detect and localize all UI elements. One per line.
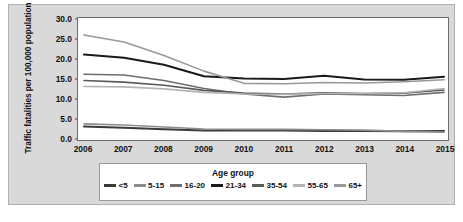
x-tick-label: 2013 — [355, 144, 374, 154]
legend-items: <55-1516-2021-3435-5455-6565+ — [100, 181, 366, 190]
y-axis-tick-labels: 0.05.010.015.020.025.030.0 — [43, 17, 75, 141]
y-tick-label: 10.0 — [56, 94, 72, 104]
line-chart-svg — [78, 18, 448, 140]
legend-label: 65+ — [348, 181, 362, 190]
x-tick-label: 2008 — [154, 144, 173, 154]
x-tick-label: 2006 — [74, 144, 93, 154]
legend-item-16-20[interactable]: 16-20 — [170, 181, 205, 190]
legend-label: 21-34 — [226, 181, 246, 190]
legend-item-55-65[interactable]: 55-65 — [293, 181, 328, 190]
y-tick-label: 20.0 — [56, 54, 72, 64]
legend-swatch — [334, 184, 346, 187]
legend-item-65-[interactable]: 65+ — [334, 181, 362, 190]
series-line-21-34 — [84, 55, 444, 80]
legend-swatch — [293, 184, 305, 187]
legend-item--5[interactable]: <5 — [104, 181, 128, 190]
legend-swatch — [252, 184, 264, 187]
y-tick-label: 0.0 — [60, 134, 72, 144]
legend-label: 55-65 — [308, 181, 328, 190]
y-axis-title: Traffic fatalities per 100,000 populatio… — [15, 15, 43, 140]
y-axis-title-text: Traffic fatalities per 100,000 populatio… — [24, 2, 34, 153]
legend-label: 16-20 — [185, 181, 205, 190]
legend-swatch — [134, 184, 146, 187]
x-axis-tick-labels: 2006200720082009201020112012201320142015 — [77, 144, 449, 158]
x-tick-label: 2012 — [315, 144, 334, 154]
legend-item-35-54[interactable]: 35-54 — [252, 181, 287, 190]
x-tick-label: 2007 — [114, 144, 133, 154]
x-tick-label: 2010 — [235, 144, 254, 154]
x-tick-label: 2015 — [436, 144, 455, 154]
y-tick-label: 25.0 — [56, 34, 72, 44]
legend-swatch — [211, 184, 223, 187]
y-tick-label: 30.0 — [56, 14, 72, 24]
legend-label: 35-54 — [267, 181, 287, 190]
chart-figure: Traffic fatalities per 100,000 populatio… — [8, 4, 455, 205]
legend-label: 5-15 — [148, 181, 164, 190]
x-tick-label: 2009 — [194, 144, 213, 154]
chart-legend: Age group <55-1516-2021-3435-5455-6565+ — [99, 163, 367, 201]
legend-label: <5 — [118, 181, 127, 190]
legend-swatch — [170, 184, 182, 187]
y-tick-label: 5.0 — [60, 114, 72, 124]
x-tick-label: 2014 — [395, 144, 414, 154]
y-tick-label: 15.0 — [56, 74, 72, 84]
legend-item-5-15[interactable]: 5-15 — [134, 181, 165, 190]
plot-area — [77, 17, 449, 141]
legend-item-21-34[interactable]: 21-34 — [211, 181, 246, 190]
legend-swatch — [104, 184, 116, 187]
x-tick-label: 2011 — [275, 144, 293, 154]
legend-title: Age group — [100, 168, 366, 178]
